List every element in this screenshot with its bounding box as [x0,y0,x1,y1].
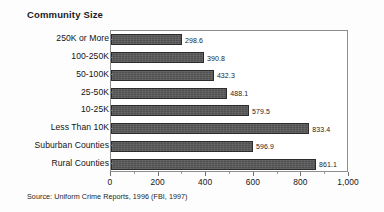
bar-row: 596.9 [111,141,347,152]
bar-row: 298.6 [111,34,347,45]
y-axis-tick [110,145,113,146]
bar-row: 390.8 [111,52,347,63]
bar[interactable] [111,70,214,81]
category-label: 100-250K [3,51,109,61]
x-axis-label: 0 [108,177,113,187]
x-axis-minor-tick [181,172,182,174]
chart-figure: Community Size 250K or More100-250K50-10… [0,0,384,212]
x-axis-label: 1,000 [337,177,358,187]
y-axis-tick [110,128,113,129]
bar-value-label: 596.9 [256,143,274,150]
bar-row: 861.1 [111,159,347,170]
bar-row: 833.4 [111,123,347,134]
x-axis-minor-tick [229,172,230,174]
bar[interactable] [111,34,182,45]
x-axis-minor-tick [324,172,325,174]
bar-row: 432.3 [111,70,347,81]
y-axis-tick [110,74,113,75]
bar[interactable] [111,88,227,99]
bar[interactable] [111,105,249,116]
category-label: Suburban Counties [3,140,109,150]
x-axis-tick [348,172,349,176]
x-axis-tick [110,172,111,176]
x-axis-tick [205,172,206,176]
source-note: Source: Uniform Crime Reports, 1996 (FBI… [27,192,188,201]
category-axis: 250K or More100-250K50-100K25-50K10-25KL… [0,30,109,172]
bar-value-label: 579.5 [252,107,270,114]
bar-value-label: 432.3 [217,72,235,79]
x-axis-tick [253,172,254,176]
y-axis-tick [110,39,113,40]
y-axis-tick [110,163,113,164]
x-axis-label: 400 [198,177,212,187]
x-axis-label: 200 [150,177,164,187]
bar-row: 579.5 [111,105,347,116]
bar-value-label: 298.6 [185,36,203,43]
bar[interactable] [111,123,309,134]
bar[interactable] [111,159,316,170]
bar-value-label: 488.1 [230,90,248,97]
category-label: 25-50K [3,87,109,97]
x-axis-label: 800 [293,177,307,187]
chart-title: Community Size [27,9,103,20]
x-axis-minor-tick [277,172,278,174]
category-label: 10-25K [3,104,109,114]
x-axis-tick [300,172,301,176]
bar[interactable] [111,141,253,152]
category-label: 50-100K [3,69,109,79]
bar-row: 488.1 [111,88,347,99]
category-label: Less Than 10K [3,122,109,132]
x-axis-tick [158,172,159,176]
bar-value-label: 861.1 [319,161,337,168]
bar[interactable] [111,52,204,63]
bar-value-label: 833.4 [312,125,330,132]
y-axis-tick [110,92,113,93]
y-axis-tick [110,57,113,58]
category-label: 250K or More [3,33,109,43]
bars-container: 298.6390.8432.3488.1579.5833.4596.9861.1 [111,31,347,171]
x-axis-minor-tick [134,172,135,174]
x-axis-label: 600 [246,177,260,187]
plot-area: 298.6390.8432.3488.1579.5833.4596.9861.1 [110,30,348,172]
y-axis-tick [110,110,113,111]
category-label: Rural Counties [3,158,109,168]
bar-value-label: 390.8 [207,54,225,61]
